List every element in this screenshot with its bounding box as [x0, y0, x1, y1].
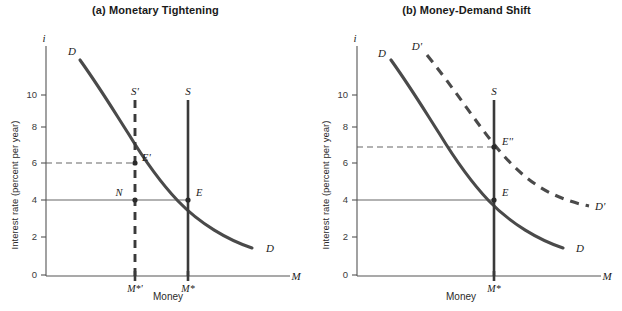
panel-money-demand-shift: (b) Money-Demand Shift 0 2 4 6 8 10 i: [311, 0, 622, 311]
curve-label-demand-top: D: [67, 45, 76, 57]
y-tick-label-2: 2: [343, 231, 348, 242]
curve-label-demand-new-top: D': [411, 40, 423, 52]
curve-label-supply: S: [185, 85, 191, 97]
demand-curve-d-prime: [427, 55, 589, 206]
point-label-e-prime: E': [141, 152, 151, 163]
y-tick-label-4: 4: [32, 194, 37, 205]
point-label-e: E: [501, 187, 509, 198]
point-e-dot: [185, 197, 190, 202]
y-tick-label-8: 8: [32, 121, 37, 132]
y-tick-label-10: 10: [337, 89, 348, 100]
demand-curve-d: [391, 60, 563, 248]
point-e-double-prime-dot: [491, 144, 496, 149]
panel-monetary-tightening: (a) Monetary Tightening 0 2 4 6 8 10 i: [0, 0, 311, 311]
x-axis-name: M: [601, 270, 612, 282]
x-axis-name: M: [290, 270, 301, 282]
y-axis-name: i: [42, 32, 45, 44]
curve-label-demand-bottom: D: [265, 242, 274, 254]
x-axis-caption: Money: [446, 291, 476, 302]
x-tick-label-m-star: M*: [180, 283, 194, 294]
point-label-n: N: [114, 187, 123, 198]
panel-b-plot: 0 2 4 6 8 10 i M Interest rate (percent …: [311, 0, 622, 311]
y-axis-caption: Interest rate (percent per year): [9, 121, 20, 250]
y-tick-label-6: 6: [32, 157, 37, 168]
point-e-dot: [491, 197, 496, 202]
curve-label-demand-bottom: D: [575, 242, 584, 254]
x-tick-label-m-star: M*: [486, 283, 500, 294]
panel-a-plot: 0 2 4 6 8 10 i M Interest rate (percent …: [0, 0, 311, 311]
y-tick-label-4: 4: [343, 194, 348, 205]
x-tick-label-m-star-prime: M*': [126, 283, 143, 294]
y-axis-name: i: [353, 32, 356, 44]
point-label-e-double-prime: E'': [501, 136, 514, 147]
curve-label-demand-new-bottom: D': [594, 200, 606, 212]
y-tick-label-2: 2: [32, 231, 37, 242]
y-axis-caption: Interest rate (percent per year): [320, 121, 331, 250]
point-n-dot: [132, 197, 137, 202]
y-tick-label-10: 10: [26, 89, 37, 100]
curve-label-supply: S: [491, 85, 497, 97]
point-label-e: E: [195, 187, 203, 198]
curve-label-supply-new: S': [131, 85, 140, 97]
y-tick-label-0: 0: [343, 269, 348, 280]
demand-curve-d: [80, 60, 252, 248]
money-market-figure: (a) Monetary Tightening 0 2 4 6 8 10 i: [0, 0, 622, 311]
y-tick-label-0: 0: [32, 269, 37, 280]
point-e-prime-dot: [132, 160, 137, 165]
y-tick-label-8: 8: [343, 121, 348, 132]
curve-label-demand-top: D: [377, 47, 386, 59]
y-tick-label-6: 6: [343, 157, 348, 168]
x-axis-caption: Money: [153, 291, 183, 302]
